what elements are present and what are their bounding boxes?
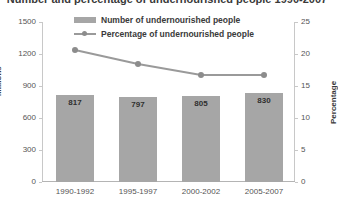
tick-right-10 [295, 118, 298, 119]
y-axis-right-tick-20: 20 [301, 50, 310, 58]
y-axis-right-title: Percentage [329, 81, 338, 124]
line-marker-1990-1992[interactable] [72, 47, 78, 53]
y-axis-right-tick-15: 15 [301, 82, 310, 90]
y-axis-right-tick-10: 10 [301, 114, 310, 122]
y-axis-left-title: Millions [0, 66, 3, 96]
y-axis-right-tick-5: 5 [301, 146, 305, 154]
x-axis-label-2000-2002: 2000-2002 [168, 187, 234, 196]
y-axis-left-tick-1500: 1500 [0, 18, 36, 26]
tick-right-25 [295, 22, 298, 23]
plot-area: 817 797 805 830 [42, 22, 295, 182]
y-axis-right-tick-0: 0 [301, 178, 305, 186]
y-axis-left-tick-300: 300 [0, 146, 36, 154]
line-marker-1995-1997[interactable] [135, 61, 141, 67]
x-axis-label-1995-1997: 1995-1997 [105, 187, 171, 196]
tick-right-15 [295, 86, 298, 87]
y-axis-left-tick-600: 600 [0, 114, 36, 122]
line-marker-2000-2002[interactable] [198, 72, 204, 78]
tick-right-20 [295, 54, 298, 55]
tick-left-0 [39, 182, 42, 183]
percentage-line-series [42, 22, 295, 182]
percentage-line-path [75, 50, 264, 75]
y-axis-right-tick-25: 25 [301, 18, 310, 26]
y-axis-left-tick-1200: 1200 [0, 50, 36, 58]
tick-right-0 [295, 182, 298, 183]
y-axis-left-tick-0: 0 [0, 178, 36, 186]
x-axis-label-1990-1992: 1990-1992 [42, 187, 108, 196]
chart-title: Number and percentage of undernourished … [0, 0, 334, 5]
x-axis-label-2005-2007: 2005-2007 [231, 187, 297, 196]
line-marker-2005-2007[interactable] [261, 72, 267, 78]
y-axis-left-tick-900: 900 [0, 82, 36, 90]
tick-right-5 [295, 150, 298, 151]
